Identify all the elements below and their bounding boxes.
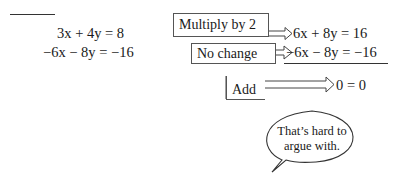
speech-bubble-text: That’s hard to argue with. (262, 124, 362, 154)
speech-line-2: argue with. (262, 139, 362, 154)
result-add: 0 = 0 (336, 77, 366, 93)
step-label-multiply: Multiply by 2 (179, 17, 256, 32)
equation-2: −6x − 8y = −16 (43, 44, 134, 60)
step-box-multiply: Multiply by 2 (173, 13, 269, 37)
result-no-change: −6x − 8y = −16 (286, 44, 377, 60)
step-box-add: Add (226, 76, 265, 100)
step-label-add: Add (232, 82, 256, 97)
speech-line-1: That’s hard to (262, 124, 362, 139)
step-box-no-change: No change (191, 43, 276, 64)
equation-1: 3x + 4y = 8 (57, 25, 124, 41)
arrow-multiply-icon (268, 27, 292, 40)
step-label-no-change: No change (197, 46, 257, 61)
result-multiply: 6x + 8y = 16 (293, 25, 367, 41)
